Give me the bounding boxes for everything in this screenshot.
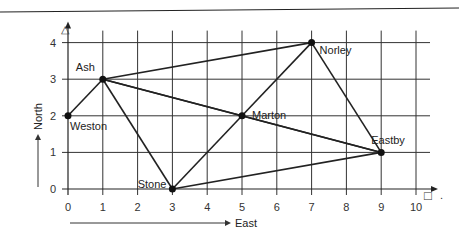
town-label-marton: Marton — [252, 109, 286, 121]
x-axis-label: East — [235, 217, 257, 229]
town-label-ash: Ash — [76, 61, 95, 73]
east-arrow-head — [225, 220, 231, 226]
town-label-stone: Stone — [138, 178, 167, 190]
x-axis-arrowhead — [431, 186, 438, 192]
x-tick-label: 6 — [274, 201, 280, 213]
grid — [62, 31, 430, 195]
town-marker-marton — [239, 112, 246, 119]
town-marker-weston — [65, 112, 72, 119]
north-arrow-head — [35, 134, 41, 140]
top-rule — [0, 8, 459, 12]
town-marker-stone — [169, 186, 176, 193]
route-weston-ash — [68, 79, 103, 116]
town-marker-norley — [308, 39, 315, 46]
network-diagram: 01234567891001234 WestonAshStoneMartonNo… — [0, 0, 459, 236]
town-label-eastby: Eastby — [371, 134, 405, 146]
x-tick-label: 3 — [169, 201, 175, 213]
x-tick-label: 1 — [100, 201, 106, 213]
town-marker-eastby — [378, 149, 385, 156]
y-tick-label: 4 — [50, 37, 56, 49]
x-tick-label: 9 — [378, 201, 384, 213]
x-tick-label: 0 — [65, 201, 71, 213]
period-mark: . — [440, 189, 443, 201]
square-symbol: □ — [424, 188, 432, 203]
y-axis-label: North — [32, 103, 44, 130]
x-tick-label: 4 — [204, 201, 210, 213]
y-tick-label: 0 — [50, 183, 56, 195]
x-tick-label: 10 — [410, 201, 422, 213]
x-tick-label: 7 — [309, 201, 315, 213]
town-label-norley: Norley — [320, 44, 352, 56]
town-marker-ash — [99, 76, 106, 83]
y-tick-label: 2 — [50, 110, 56, 122]
y-tick-label: 1 — [50, 146, 56, 158]
y-tick-label: 3 — [50, 73, 56, 85]
x-tick-label: 5 — [239, 201, 245, 213]
x-tick-label: 8 — [343, 201, 349, 213]
triangle-symbol: △ — [61, 23, 70, 35]
x-tick-label: 2 — [135, 201, 141, 213]
town-label-weston: Weston — [70, 120, 107, 132]
